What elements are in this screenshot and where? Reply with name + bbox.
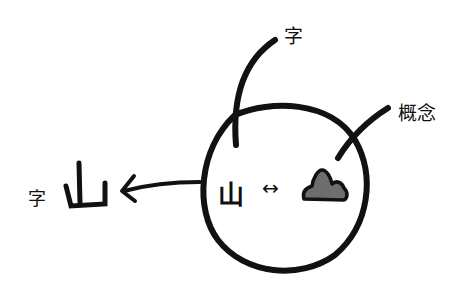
inner-character: 山 [218,174,244,211]
left-arrow-shaft [124,182,200,191]
left-prefix-label: 字 [28,184,46,210]
mountain-icon [303,170,347,200]
top-pointer-label: 字 [284,21,303,48]
character-pointer-line [235,40,275,145]
big-mountain-character [66,163,105,206]
right-pointer-label: 概念 [398,98,436,125]
bidirectional-arrow: ↔ [262,176,279,200]
diagram-canvas [0,0,466,293]
